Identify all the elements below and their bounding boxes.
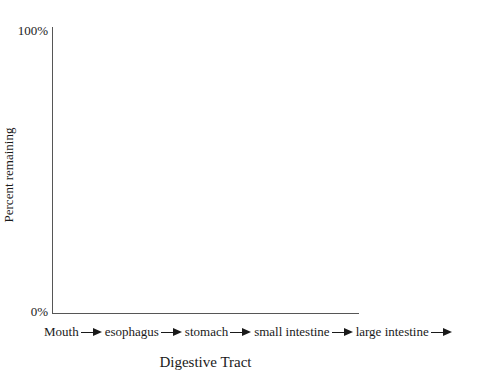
y-axis-tick-top: 100% [0, 24, 48, 38]
tract-step-large-intestine: large intestine [356, 323, 429, 341]
tract-step-small-intestine: small intestine [254, 323, 329, 341]
right-arrow-icon-trailing [431, 326, 453, 339]
right-arrow-icon [161, 326, 183, 339]
chart-canvas: 100% 0% Percent remaining Mouth esophagu… [0, 0, 498, 378]
right-arrow-icon [81, 326, 103, 339]
x-axis-title: Digestive Tract [52, 352, 359, 372]
tract-step-esophagus: esophagus [105, 323, 159, 341]
x-axis-line [52, 313, 359, 314]
y-axis-title: Percent remaining [0, 105, 18, 245]
right-arrow-icon [230, 326, 252, 339]
tract-step-mouth: Mouth [44, 323, 79, 341]
y-axis-tick-bottom: 0% [0, 305, 48, 319]
right-arrow-icon [332, 326, 354, 339]
digestive-tract-sequence: Mouth esophagus stomach small intestine … [44, 323, 494, 341]
tract-step-stomach: stomach [185, 323, 228, 341]
plot-area [53, 27, 359, 313]
